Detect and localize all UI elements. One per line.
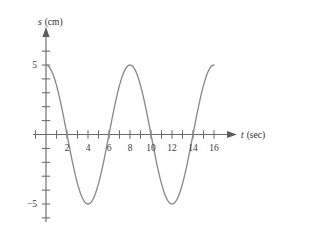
- svg-text:s(cm): s(cm): [38, 17, 63, 28]
- x-tick-label: 16: [209, 143, 219, 153]
- x-tick-label: 2: [65, 143, 70, 153]
- y-axis-variable: s: [38, 17, 42, 27]
- x-tick-label: 10: [146, 143, 156, 153]
- x-tick-labels: 2 4 6 8 10 12 14 16: [65, 143, 219, 153]
- graph-figure: 2 4 6 8 10 12 14 16 5 −5 s(cm) t(sec): [0, 0, 332, 235]
- cosine-graph-svg: 2 4 6 8 10 12 14 16 5 −5 s(cm) t(sec): [0, 0, 332, 235]
- axes-group: [33, 27, 237, 222]
- x-axis-unit: (sec): [247, 130, 265, 141]
- x-axis-variable: t: [241, 130, 244, 140]
- y-tick-label: 5: [32, 60, 37, 70]
- x-tick-label: 14: [188, 143, 198, 153]
- x-tick-label: 12: [167, 143, 177, 153]
- x-tick-label: 6: [107, 143, 112, 153]
- x-axis-title: t(sec): [241, 130, 265, 141]
- y-tick-label: −5: [27, 199, 37, 209]
- x-tick-label: 8: [128, 143, 133, 153]
- y-axis-title: s(cm): [38, 17, 63, 28]
- y-axis-unit: (cm): [45, 17, 63, 28]
- svg-text:t(sec): t(sec): [241, 130, 265, 141]
- x-tick-label: 4: [86, 143, 91, 153]
- x-axis-arrow-icon: [227, 131, 237, 138]
- y-axis-arrow-icon: [42, 27, 49, 37]
